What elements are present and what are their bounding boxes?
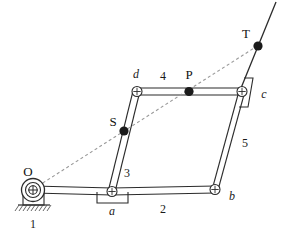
joint-d[interactable]	[132, 87, 142, 97]
label-joint-c: c	[261, 87, 267, 101]
label-link-1: 1	[30, 217, 36, 231]
point-S-marker[interactable]	[119, 126, 128, 135]
label-joint-d: d	[133, 67, 140, 81]
label-joint-a: a	[109, 204, 115, 218]
pivot-O[interactable]	[22, 179, 45, 202]
label-point-S: S	[109, 114, 116, 129]
label-joint-b: b	[229, 189, 235, 203]
label-link-5: 5	[242, 136, 248, 150]
label-link-3: 3	[124, 166, 130, 180]
diagram-canvas: O 1 a 2 3 4 5 b c d S P T	[0, 0, 285, 248]
label-point-P: P	[185, 67, 192, 82]
collinearity-dashed-line	[38, 43, 262, 186]
point-P-marker[interactable]	[184, 87, 193, 96]
label-point-T: T	[242, 26, 250, 41]
link-5-bar	[212, 91, 245, 190]
joint-b[interactable]	[210, 185, 220, 195]
ground-hatching	[15, 205, 51, 211]
joint-c[interactable]	[237, 87, 247, 97]
label-link-2: 2	[160, 202, 166, 216]
label-link-4: 4	[160, 69, 166, 83]
joint-a[interactable]	[107, 187, 117, 197]
label-O: O	[23, 164, 32, 179]
point-T-marker[interactable]	[253, 41, 262, 50]
mechanism-diagram: O 1 a 2 3 4 5 b c d S P T	[0, 0, 285, 248]
